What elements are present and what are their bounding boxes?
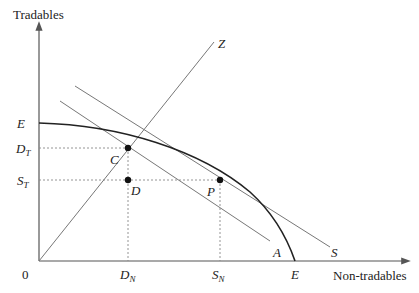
ray-z xyxy=(39,42,214,261)
tradables-nontradables-diagram: Tradables Non-tradables 0 Z S A C D P E … xyxy=(0,0,419,293)
label-c: C xyxy=(110,152,119,167)
point-p xyxy=(217,177,223,183)
label-st: ST xyxy=(17,173,30,190)
guide-lines xyxy=(39,148,220,261)
origin-label: 0 xyxy=(22,267,29,282)
label-dn: DN xyxy=(119,267,136,284)
label-dt: DT xyxy=(15,141,31,158)
label-a: A xyxy=(272,245,281,260)
label-e-bottom: E xyxy=(290,267,299,282)
label-s: S xyxy=(331,245,338,260)
label-e-top: E xyxy=(16,116,25,131)
line-a xyxy=(60,101,270,241)
point-c xyxy=(125,145,131,151)
label-d: D xyxy=(130,183,141,198)
x-axis-label: Non-tradables xyxy=(333,268,407,283)
label-p: P xyxy=(206,184,215,199)
label-z: Z xyxy=(218,36,226,51)
y-axis-label: Tradables xyxy=(13,7,64,22)
label-sn: SN xyxy=(212,267,226,284)
